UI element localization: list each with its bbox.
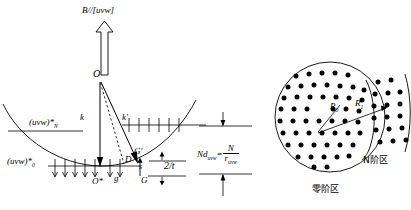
spacing-formula-lhs-sub: uvw [208, 155, 217, 161]
diffracted-beam-label: k' [122, 113, 128, 122]
zone-N-text: (uvw)* [29, 117, 54, 127]
magnetic-field-arrow [96, 21, 113, 75]
incident-beam-k-arrow [97, 82, 103, 167]
radius-R0-sub: 0 [336, 107, 339, 113]
spacing-formula: Nduvw= N ruvw [197, 144, 239, 165]
zero-order-zone-label: 零阶区 [312, 185, 339, 194]
incident-beam-label: k [80, 113, 84, 122]
figure-vector-layer [0, 0, 411, 210]
magnetic-field-label: B//[uvw] [82, 6, 114, 15]
spacing-formula-den-sub: uvw [228, 159, 237, 165]
radius-R1-label: R1 [355, 99, 363, 110]
zone-0-text: (uvw)* [7, 156, 32, 166]
relrod-length-label: 2/t [164, 161, 175, 171]
radius-R1-sub: 1 [361, 104, 364, 110]
zone-N-sub: N [54, 123, 58, 129]
zone-0-sub: 0 [32, 162, 35, 168]
zone-0-label: (uvw)*0 [7, 157, 35, 168]
spacing-formula-lhs: Nd [197, 149, 208, 159]
origin-star-label: O* [92, 177, 103, 186]
reciprocal-point-label: G [141, 176, 148, 185]
radius-R0-label: R0 [330, 102, 338, 113]
zone-0-relrod-arrows [53, 159, 123, 177]
n-order-zone-label: N阶区 [363, 156, 388, 165]
diffracted-beam-kprime-arrow [101, 82, 138, 164]
zone-N-label: (uvw)*N [29, 118, 58, 129]
origin-label: O [93, 69, 100, 79]
excitation-error-label: s [139, 163, 142, 171]
spacing-formula-denominator: ruvw [223, 154, 240, 165]
figure-canvas: B//[uvw] O O* k k' D G' G g s 2/t (uvw)*… [0, 0, 411, 210]
reciprocal-point-prime-label: G' [134, 147, 142, 156]
reciprocal-vector-label: g [114, 174, 119, 183]
deviation-point-label: D [125, 155, 132, 164]
